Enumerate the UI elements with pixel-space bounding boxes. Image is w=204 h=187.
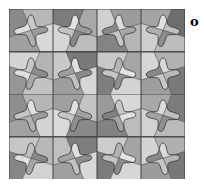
star-tile-icon [9, 137, 53, 180]
star-tile-icon [53, 52, 97, 95]
tile-r4-c3 [97, 137, 141, 180]
star-tile-icon [97, 94, 141, 137]
star-tile-icon [141, 52, 185, 95]
option-label: o [190, 14, 199, 29]
star-tile-icon [141, 9, 185, 52]
star-tile-icon [9, 9, 53, 52]
tile-r1-c1 [9, 9, 53, 52]
star-tile-icon [9, 94, 53, 137]
tile-r3-c2 [53, 94, 97, 137]
star-tile-icon [141, 94, 185, 137]
star-tile-icon [141, 137, 185, 180]
tile-r2-c3 [97, 52, 141, 95]
star-tile-icon [53, 137, 97, 180]
tile-r3-c4 [141, 94, 185, 137]
tile-r2-c1 [9, 52, 53, 95]
tile-r3-c1 [9, 94, 53, 137]
tile-r1-c4 [141, 9, 185, 52]
tile-r3-c3 [97, 94, 141, 137]
star-tile-icon [97, 137, 141, 180]
tile-r4-c1 [9, 137, 53, 180]
star-tile-icon [97, 52, 141, 95]
tile-r4-c4 [141, 137, 185, 180]
star-tile-icon [97, 9, 141, 52]
star-tile-icon [53, 94, 97, 137]
star-tile-icon [9, 52, 53, 95]
tile-r1-c3 [97, 9, 141, 52]
tile-grid [9, 9, 185, 179]
tile-r1-c2 [53, 9, 97, 52]
tile-r4-c2 [53, 137, 97, 180]
tile-r2-c2 [53, 52, 97, 95]
star-tile-icon [53, 9, 97, 52]
tile-r2-c4 [141, 52, 185, 95]
